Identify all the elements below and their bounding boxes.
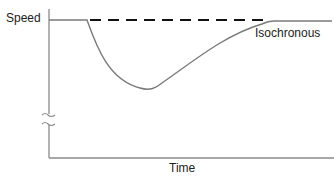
y-axis-label: Speed (6, 11, 41, 25)
axis-break-icon (42, 114, 55, 126)
x-axis-label: Time (169, 161, 195, 175)
isochronous-annotation: Isochronous (255, 26, 320, 40)
